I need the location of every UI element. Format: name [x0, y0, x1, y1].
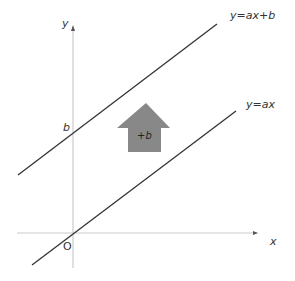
- line-label-y-ax: y=ax: [245, 98, 275, 111]
- y-axis-label: y: [61, 17, 69, 30]
- shift-up-arrow-icon: [117, 103, 170, 152]
- intercept-label: b: [63, 121, 70, 134]
- x-axis-label: x: [269, 235, 277, 248]
- line-y-ax-plus-b: [18, 24, 217, 175]
- linear-function-shift-diagram: y x O b y=ax+b y=ax +b: [0, 0, 295, 281]
- line-label-y-ax-plus-b: y=ax+b: [229, 9, 275, 22]
- origin-label: O: [63, 240, 72, 253]
- diagram-svg: y x O b y=ax+b y=ax +b: [0, 0, 295, 281]
- y-axis-arrowhead-icon: [71, 25, 75, 31]
- x-axis-arrowhead-icon: [253, 231, 258, 235]
- shift-arrow-label: +b: [137, 130, 152, 141]
